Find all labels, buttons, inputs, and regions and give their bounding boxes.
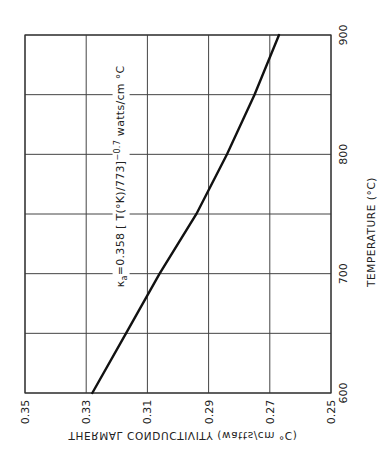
temperature-tick-label: 600 — [337, 383, 350, 404]
temperature-tick-labels: 600700800900 — [337, 25, 350, 404]
temperature-tick-label: 700 — [337, 263, 350, 284]
grid — [25, 35, 331, 393]
conductivity-tick-label: 0.35 — [19, 400, 32, 425]
conductivity-tick-label: 0.27 — [264, 400, 277, 425]
temperature-tick-label: 900 — [337, 25, 350, 46]
formula-annotation: κa=0.358 [ T(°K)/773]−0.7 watts/cm °C — [113, 57, 130, 295]
formula-exponent: −0.7 — [113, 140, 122, 161]
conductivity-tick-label: 0.33 — [80, 400, 93, 425]
formula-body: =0.358 [ T(°K)/773] — [114, 161, 127, 276]
thermal-conductivity-chart: 0.350.330.310.290.270.25 600700800900 — [0, 0, 388, 467]
conductivity-axis-title: THERMAL CONDUCTIVITY (watts/cm °C) — [58, 430, 308, 442]
formula-units: watts/cm °C — [114, 66, 127, 137]
conductivity-tick-label: 0.31 — [141, 400, 154, 425]
temperature-axis-title: TEMPERATURE (°C) — [365, 157, 377, 307]
conductivity-tick-labels: 0.350.330.310.290.270.25 — [19, 400, 338, 425]
temperature-tick-label: 800 — [337, 144, 350, 165]
kappa-symbol: κ — [114, 280, 127, 287]
kappa-subscript: a — [120, 275, 129, 280]
conductivity-tick-label: 0.29 — [203, 400, 216, 425]
